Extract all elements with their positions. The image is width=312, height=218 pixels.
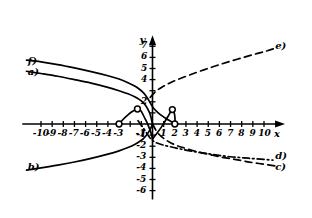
x-tick-label: 7 (227, 129, 233, 138)
curve-a (27, 71, 153, 124)
plot-canvas (0, 0, 312, 218)
curve-label-d: d) (275, 151, 287, 161)
curve-label-c: c) (275, 162, 286, 172)
x-tick-label: 5 (205, 129, 211, 138)
y-tick-label: 2 (141, 97, 147, 106)
x-tick-label: 10 (258, 129, 271, 138)
y-tick-label: 6 (141, 52, 147, 61)
x-tick-label: -5 (91, 129, 101, 138)
x-tick-label: -7 (69, 129, 79, 138)
curve-e (150, 47, 277, 97)
curve-label-f: f) (28, 56, 37, 66)
x-tick-label: -6 (80, 129, 90, 138)
axes-layer (22, 35, 285, 199)
open-point-x-neg3 (116, 121, 122, 127)
x-tick-label: 6 (216, 129, 222, 138)
y-tick-label: -2 (136, 141, 146, 150)
x-tick-label: -9 (46, 129, 56, 138)
y-axis-arrowhead (149, 35, 156, 45)
y-tick-label: -3 (136, 152, 146, 161)
y-tick-label: -1 (136, 130, 146, 139)
y-tick-label: -4 (136, 163, 146, 172)
x-tick-label: -8 (58, 129, 68, 138)
inverse-functions-graph-figure: y x -10-9-8-7-6-5-4-3-11234567891076542-… (0, 0, 312, 218)
x-axis-arrowhead (275, 120, 285, 127)
x-tick-label: 3 (183, 129, 189, 138)
open-point-x-2 (172, 121, 178, 127)
curve-label-a: a) (28, 67, 39, 77)
curve-label-b: b) (28, 162, 40, 172)
x-tick-label: -4 (102, 129, 112, 138)
x-tick-label: -3 (113, 129, 123, 138)
y-tick-label: -6 (136, 186, 146, 195)
x-tick-label: 8 (238, 129, 244, 138)
open-point-right-peak (169, 107, 175, 113)
y-tick-label: -5 (136, 175, 146, 184)
y-tick-label: 4 (141, 75, 147, 84)
x-tick-label: 9 (249, 129, 255, 138)
x-tick-label: 1 (160, 129, 166, 138)
x-axis-label: x (274, 129, 280, 139)
y-tick-label: 5 (141, 64, 147, 73)
y-tick-label: 7 (141, 41, 147, 50)
x-tick-label: 4 (194, 129, 200, 138)
open-point-left-peak (135, 106, 141, 112)
x-tick-label: 2 (171, 129, 177, 138)
curve-label-e: e) (275, 41, 286, 51)
